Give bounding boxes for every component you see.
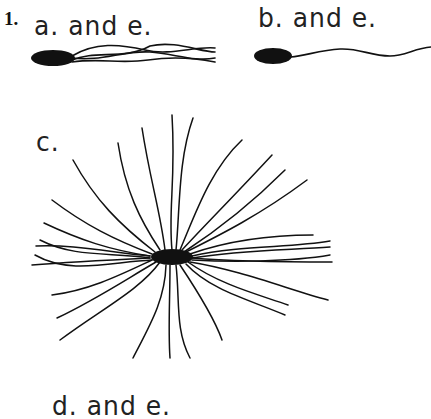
monotrichous-bacterium-icon <box>254 47 431 64</box>
lophotrichous-bacterium-icon <box>31 44 215 66</box>
peritrichous-bacterium-icon <box>32 115 332 358</box>
